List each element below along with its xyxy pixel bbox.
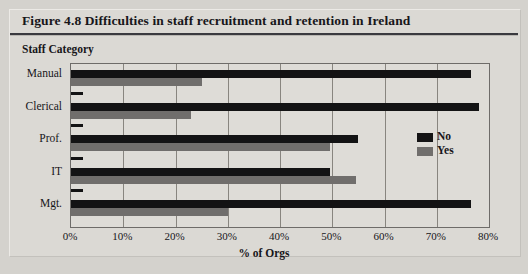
figure-container: Figure 4.8 Difficulties in staff recruit…: [0, 0, 528, 274]
x-tick-label-10: 10%: [112, 230, 132, 242]
bar-clerical-no: [71, 103, 479, 111]
category-label-clerical: Clerical: [26, 100, 62, 112]
x-tick-label-30: 30%: [217, 230, 237, 242]
legend-item-yes: Yes: [417, 145, 477, 158]
category-separator-tick: [71, 157, 83, 160]
category-axis-labels: ManualClericalProf.ITMgt.: [0, 63, 66, 228]
x-tick-label-0: 0%: [63, 230, 78, 242]
category-separator-tick: [71, 189, 83, 192]
bar-prof-no: [71, 135, 358, 143]
bar-it-no: [71, 168, 330, 176]
x-tick-label-40: 40%: [269, 230, 289, 242]
category-label-it: IT: [51, 165, 62, 177]
x-tick-label-70: 70%: [426, 230, 446, 242]
x-tick-label-80: 80%: [478, 230, 498, 242]
category-label-manual: Manual: [27, 67, 62, 79]
bar-clerical-yes: [71, 111, 191, 119]
category-label-prof: Prof.: [39, 132, 62, 144]
legend-label-yes: Yes: [437, 144, 454, 156]
bar-manual-yes: [71, 78, 202, 86]
plot-wrapper: ManualClericalProf.ITMgt. 0%10%20%30%40%…: [0, 0, 528, 274]
bar-prof-yes: [71, 143, 330, 151]
bar-mgt-no: [71, 200, 471, 208]
legend-swatch-no: [417, 133, 433, 142]
bar-it-yes: [71, 176, 356, 184]
x-axis-title: % of Orgs: [0, 247, 528, 259]
category-separator-tick: [71, 92, 83, 95]
category-separator-tick: [71, 124, 83, 127]
legend-swatch-yes: [417, 147, 433, 156]
legend-item-no: No: [417, 131, 477, 144]
legend-label-no: No: [437, 130, 451, 142]
x-tick-label-50: 50%: [321, 230, 341, 242]
x-tick-label-20: 20%: [164, 230, 184, 242]
category-label-mgt: Mgt.: [40, 197, 62, 209]
x-axis-tick-labels: 0%10%20%30%40%50%60%70%80%: [70, 229, 490, 245]
x-tick-label-60: 60%: [373, 230, 393, 242]
chart-legend: NoYes: [417, 131, 477, 159]
bar-mgt-yes: [71, 208, 228, 216]
bar-manual-no: [71, 70, 471, 78]
